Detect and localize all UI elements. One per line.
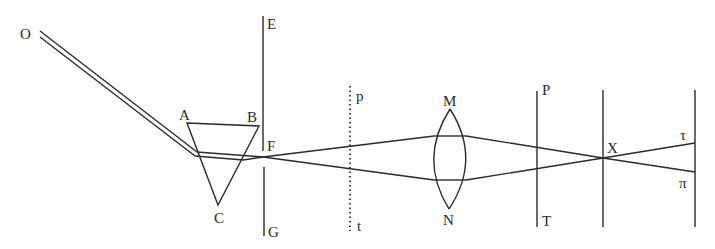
label-F: F (267, 138, 275, 154)
diverging-rays (263, 136, 434, 180)
label-B: B (247, 109, 257, 125)
incident-beam (40, 31, 197, 156)
prism-rays (195, 152, 263, 160)
label-p: p (356, 88, 364, 104)
convex-lens (434, 109, 466, 209)
label-G: G (268, 224, 279, 240)
label-t: t (357, 218, 362, 234)
label-N: N (443, 212, 454, 228)
label-pi: π (679, 175, 687, 191)
label-P: P (542, 82, 550, 98)
optics-diagram: O A B C E F G p t M N P T X τ π (0, 0, 715, 249)
label-E: E (267, 16, 276, 32)
label-C: C (214, 210, 224, 226)
label-T: T (542, 213, 551, 229)
label-A: A (179, 107, 190, 123)
label-tau: τ (680, 127, 686, 143)
screen-eg (263, 16, 264, 236)
prism (187, 123, 259, 205)
label-M: M (443, 93, 456, 109)
converging-rays (466, 136, 695, 180)
label-X: X (607, 140, 618, 156)
label-O: O (20, 26, 31, 42)
